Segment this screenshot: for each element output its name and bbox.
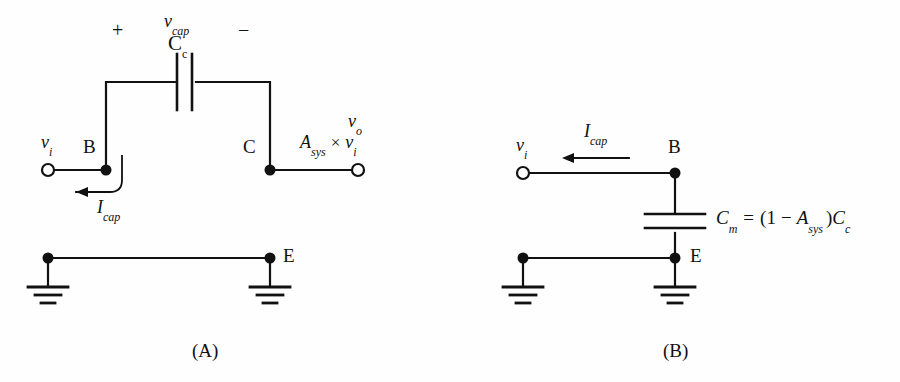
polarity-plus-label: + <box>112 20 123 40</box>
current-arrow-icap-a <box>76 156 122 192</box>
node-dot-c-a <box>265 165 276 176</box>
input-vi-subscript-a: i <box>49 145 52 159</box>
current-icap-subscript-b: cap <box>590 134 607 148</box>
panel-caption-b: (B) <box>663 341 688 360</box>
output-vo-symbol: v <box>348 111 356 131</box>
output-vo-label: vo <box>348 112 362 133</box>
gain-asys-subscript: sys <box>311 145 326 159</box>
wire-b-to-cap-left <box>106 82 176 170</box>
input-vi-subscript-b: i <box>524 148 527 162</box>
capacitor-cc-symbol: C <box>168 31 182 55</box>
current-arrowhead-icap-b <box>562 153 574 163</box>
input-vi-label-b: vi <box>516 136 527 157</box>
capacitor-cc-label: Cc <box>168 33 187 56</box>
equation-cc-subscript: c <box>845 222 850 236</box>
terminal-vi-a <box>42 164 54 176</box>
output-vo-subscript: o <box>356 124 362 138</box>
multiply-icon: × <box>331 133 341 152</box>
terminal-vi-b <box>517 167 529 179</box>
input-vi-symbol-b: v <box>516 135 524 155</box>
equation-equals-sign: = <box>743 207 754 228</box>
polarity-minus-label: − <box>238 20 249 40</box>
equation-asys-subscript: sys <box>808 222 823 236</box>
equation-one: 1 <box>766 207 776 228</box>
gain-asys-symbol: A <box>300 132 311 152</box>
node-label-e-a: E <box>283 246 295 265</box>
output-expression-label: Asys×vi <box>300 133 357 154</box>
node-label-b-b: B <box>668 137 681 156</box>
current-icap-label-b: Icap <box>584 122 607 143</box>
current-icap-subscript-a: cap <box>103 210 120 224</box>
current-arrowhead-icap-a <box>76 187 88 197</box>
panel-caption-a: (A) <box>192 341 218 360</box>
equation-minus-sign: − <box>781 207 792 228</box>
node-dot-b-a <box>101 165 112 176</box>
input-vi-symbol-a: v <box>41 132 49 152</box>
capacitor-cc-subscript: c <box>182 47 187 61</box>
current-icap-label-a: Icap <box>97 198 120 219</box>
equation-cm-subscript: m <box>729 222 738 236</box>
terminal-vo-a <box>352 164 364 176</box>
input-vi-label-a: vi <box>41 133 52 154</box>
miller-capacitance-equation: Cm=(1−Asys)Cc <box>716 208 850 231</box>
output-expr-vi-subscript: i <box>353 145 356 159</box>
circuit-svg <box>0 0 900 382</box>
node-label-e-b: E <box>690 246 702 265</box>
node-label-b-a: B <box>83 137 96 156</box>
equation-asys-symbol: A <box>797 207 809 228</box>
equation-cc-symbol: C <box>832 207 845 228</box>
cap-voltage-symbol: v <box>164 11 172 31</box>
equation-cm-symbol: C <box>716 207 729 228</box>
figure-canvas: + − vcap Cc vi B C E Icap vo Asys×vi (A)… <box>0 0 900 382</box>
cap-voltage-label: vcap <box>164 12 189 33</box>
node-label-c-a: C <box>243 137 256 156</box>
wire-cap-right-to-c <box>196 82 270 170</box>
